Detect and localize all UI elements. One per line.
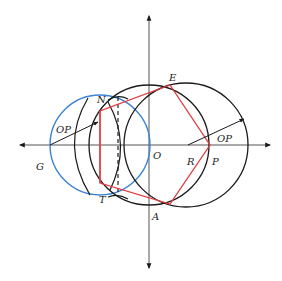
label-g: G <box>36 161 44 172</box>
label-n: N <box>96 94 107 105</box>
pentagon-construction-diagram: E N OP OP G O R P T A <box>0 0 282 281</box>
label-op-left: OP <box>56 124 71 135</box>
label-e: E <box>168 72 177 83</box>
label-o: O <box>153 150 161 161</box>
label-a: A <box>151 211 159 222</box>
label-r: R <box>186 156 195 167</box>
label-t: T <box>99 194 107 205</box>
label-op-right: OP <box>217 133 232 144</box>
label-p: P <box>211 156 219 167</box>
arc-left-inner <box>108 102 121 190</box>
op-arrow-right <box>188 119 244 145</box>
arc-left-outer <box>74 98 90 195</box>
